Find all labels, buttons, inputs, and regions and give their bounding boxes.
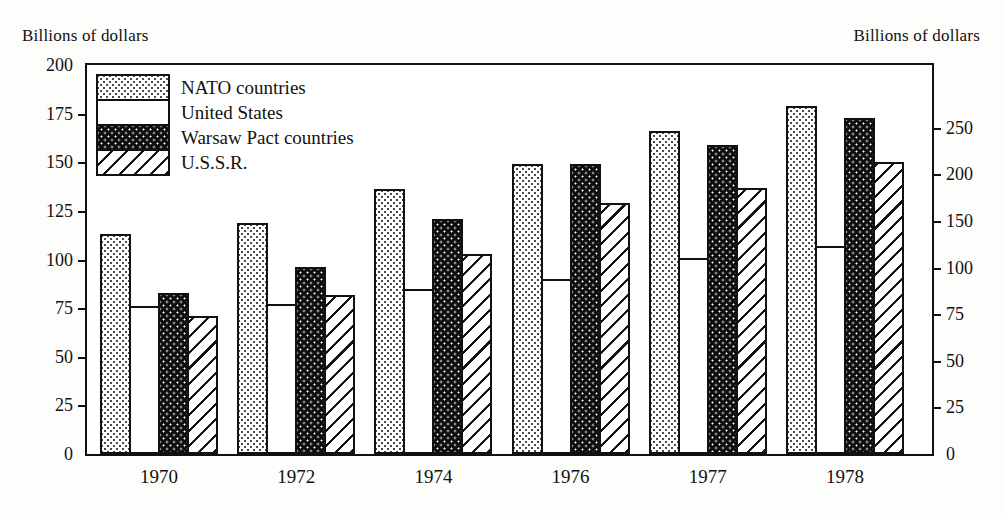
right-axis-tick-label: 200 bbox=[946, 165, 973, 183]
bar-1970-u-s-s-r bbox=[187, 316, 218, 454]
legend-label-nato-countries: NATO countries bbox=[181, 75, 354, 100]
bar-1977-u-s-s-r bbox=[736, 188, 767, 454]
legend-swatch-united-states bbox=[98, 101, 168, 126]
left-axis-tick bbox=[78, 162, 87, 164]
legend-swatch-ussr bbox=[98, 151, 168, 174]
bar-1976-warsaw-pact-countries bbox=[570, 164, 601, 454]
bar-1977-warsaw-pact-countries bbox=[707, 145, 738, 454]
bar-chart-figure: Billions of dollars Billions of dollars … bbox=[0, 0, 1004, 515]
x-axis-label-1977: 1977 bbox=[689, 466, 727, 488]
bar-1972-u-s-s-r bbox=[324, 295, 355, 454]
right-axis-tick bbox=[932, 361, 941, 363]
left-axis-tick-label: 50 bbox=[55, 348, 73, 366]
left-axis-tick-label: 0 bbox=[64, 445, 73, 463]
bar-1976-u-s-s-r bbox=[599, 203, 630, 454]
bar-1972-warsaw-pact-countries bbox=[295, 267, 326, 454]
legend-swatch-column bbox=[96, 74, 170, 176]
right-axis-tick-label: 150 bbox=[946, 212, 973, 230]
bar-1974-united-states bbox=[403, 289, 434, 454]
right-axis-tick bbox=[932, 221, 941, 223]
bar-1972-united-states bbox=[266, 304, 297, 454]
bar-1978-warsaw-pact-countries bbox=[844, 118, 875, 454]
chart-legend: NATO countries United States Warsaw Pact… bbox=[96, 74, 354, 176]
bar-1974-nato-countries bbox=[374, 189, 405, 454]
x-axis-label-1976: 1976 bbox=[552, 466, 590, 488]
x-axis-label-1974: 1974 bbox=[414, 466, 452, 488]
left-axis-tick-label: 150 bbox=[46, 153, 73, 171]
right-axis-tick-label: 25 bbox=[946, 398, 964, 416]
bar-1978-nato-countries bbox=[786, 106, 817, 454]
right-axis-tick bbox=[932, 174, 941, 176]
left-axis-tick bbox=[78, 405, 87, 407]
legend-label-column: NATO countries United States Warsaw Pact… bbox=[181, 74, 354, 176]
bar-1976-united-states bbox=[541, 279, 572, 454]
x-axis-label-1972: 1972 bbox=[277, 466, 315, 488]
bar-group: 1976 bbox=[512, 65, 636, 454]
left-axis-tick-label: 125 bbox=[46, 202, 73, 220]
left-axis-tick-label: 175 bbox=[46, 105, 73, 123]
right-axis-tick-label: 0 bbox=[946, 445, 955, 463]
left-axis-tick bbox=[78, 260, 87, 262]
bar-1970-united-states bbox=[129, 306, 160, 454]
right-axis-tick bbox=[932, 314, 941, 316]
bar-1978-united-states bbox=[815, 246, 846, 454]
right-axis-tick bbox=[932, 268, 941, 270]
left-axis-tick bbox=[78, 308, 87, 310]
bar-1977-nato-countries bbox=[649, 131, 680, 454]
left-axis-tick bbox=[78, 357, 87, 359]
right-axis-tick bbox=[932, 407, 941, 409]
bar-1970-nato-countries bbox=[100, 234, 131, 454]
right-axis-tick-label: 100 bbox=[946, 259, 973, 277]
legend-label-united-states: United States bbox=[181, 100, 354, 125]
left-axis-tick bbox=[78, 211, 87, 213]
bar-group: 1974 bbox=[374, 65, 498, 454]
left-axis-tick-label: 75 bbox=[55, 299, 73, 317]
legend-label-ussr: U.S.S.R. bbox=[181, 150, 354, 175]
bar-1970-warsaw-pact-countries bbox=[158, 293, 189, 454]
bar-1974-warsaw-pact-countries bbox=[432, 219, 463, 454]
right-axis-tick-label: 75 bbox=[946, 305, 964, 323]
bar-1977-united-states bbox=[678, 258, 709, 454]
legend-swatch-warsaw-pact-countries bbox=[98, 126, 168, 151]
right-axis-tick-label: 250 bbox=[946, 119, 973, 137]
legend-label-warsaw-pact-countries: Warsaw Pact countries bbox=[181, 125, 354, 150]
bar-group: 1977 bbox=[649, 65, 773, 454]
bar-1978-u-s-s-r bbox=[873, 162, 904, 454]
bar-1974-u-s-s-r bbox=[461, 254, 492, 454]
bar-1972-nato-countries bbox=[237, 223, 268, 454]
bar-1976-nato-countries bbox=[512, 164, 543, 454]
right-axis-tick-label: 50 bbox=[946, 352, 964, 370]
bar-group: 1978 bbox=[786, 65, 910, 454]
x-axis-label-1970: 1970 bbox=[140, 466, 178, 488]
right-axis-caption: Billions of dollars bbox=[853, 26, 980, 46]
left-axis-tick bbox=[78, 114, 87, 116]
left-axis-tick-label: 100 bbox=[46, 251, 73, 269]
x-axis-label-1978: 1978 bbox=[826, 466, 864, 488]
left-axis-tick-label: 25 bbox=[55, 396, 73, 414]
right-axis-tick bbox=[932, 128, 941, 130]
legend-swatch-nato-countries bbox=[98, 76, 168, 101]
left-axis-caption: Billions of dollars bbox=[22, 26, 149, 46]
left-axis-tick-label: 200 bbox=[46, 56, 73, 74]
